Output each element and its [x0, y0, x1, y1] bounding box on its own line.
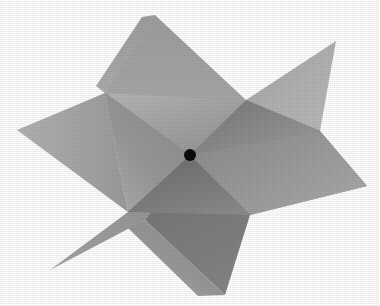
geometric-figure-svg [0, 0, 380, 306]
origin-dot [184, 149, 196, 161]
figure-canvas [0, 0, 380, 306]
